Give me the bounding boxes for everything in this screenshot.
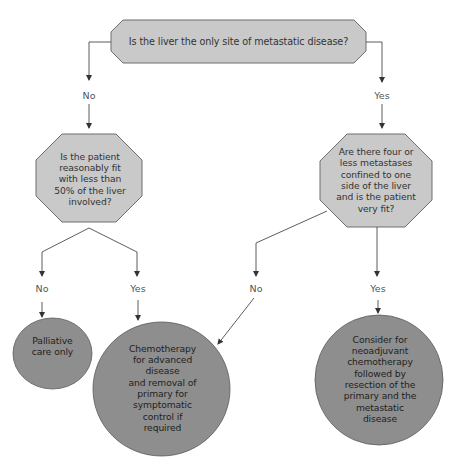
palliative-text: Palliative care only xyxy=(15,326,90,366)
edge-root-yes xyxy=(366,42,382,128)
edge-root-no xyxy=(89,42,111,128)
left-question-text: Is the patient reasonably fit with less … xyxy=(40,136,140,222)
root-question-text: Is the liver the only site of metastatic… xyxy=(111,20,366,63)
edge-label-right-no: No xyxy=(250,283,263,294)
edge-right-no xyxy=(218,211,327,344)
edge-label-root-no: No xyxy=(83,90,96,101)
edge-right-yes xyxy=(377,227,378,313)
edge-label-root-yes: Yes xyxy=(374,90,389,101)
right-question-text: Are there four or less metastases confin… xyxy=(322,136,430,224)
neoadjuvant-text: Consider for neoadjuvant chemotherapy fo… xyxy=(325,333,435,425)
edge-label-left-no: No xyxy=(36,283,49,294)
edge-left-branches xyxy=(42,228,138,320)
chemo-advanced-text: Chemotherapy for advanced disease and re… xyxy=(105,340,220,436)
edge-label-left-yes: Yes xyxy=(130,283,145,294)
edge-label-right-yes: Yes xyxy=(370,283,385,294)
